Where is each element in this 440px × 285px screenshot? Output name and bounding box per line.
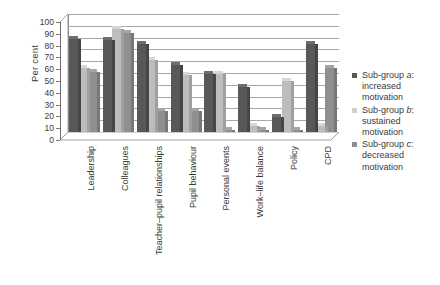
legend-label-line3: motivation bbox=[362, 127, 440, 138]
bar-face bbox=[325, 68, 334, 132]
x-tick-label: Work–life balance bbox=[256, 146, 265, 217]
bar bbox=[325, 68, 334, 132]
y-tick-label-100: 100 bbox=[40, 18, 54, 26]
bar-group bbox=[137, 22, 165, 140]
y-tick-label-0: 0 bbox=[49, 136, 54, 144]
bar-side bbox=[87, 68, 90, 132]
y-tick-label-20: 20 bbox=[45, 112, 54, 120]
bar-face bbox=[238, 87, 247, 132]
bar-group bbox=[171, 22, 199, 140]
legend-swatch-icon bbox=[352, 73, 357, 78]
legend-label-line2: sustained bbox=[362, 116, 440, 127]
y-tick-mark-20 bbox=[56, 116, 60, 117]
y-tick-label-40: 40 bbox=[45, 89, 54, 97]
y-tick-label-30: 30 bbox=[45, 101, 54, 109]
bar-group bbox=[272, 22, 300, 140]
bar-top bbox=[137, 41, 146, 44]
bar-side bbox=[232, 130, 235, 132]
y-tick-label-10: 10 bbox=[45, 124, 54, 132]
bar-side bbox=[112, 40, 115, 132]
x-tick-label: Personal events bbox=[222, 146, 231, 211]
bar-group bbox=[204, 22, 232, 140]
legend-label-line1: Sub-group c: bbox=[362, 139, 440, 150]
bar-side bbox=[213, 74, 216, 132]
bar-top bbox=[171, 62, 180, 65]
y-tick-label-60: 60 bbox=[45, 65, 54, 73]
bar-side bbox=[223, 74, 226, 132]
bar bbox=[238, 87, 247, 132]
bar-top bbox=[325, 65, 334, 68]
legend-label-line1: Sub-group b: bbox=[362, 105, 440, 116]
bar-top bbox=[204, 71, 213, 74]
bar-face bbox=[272, 117, 281, 132]
bar-side bbox=[146, 44, 149, 133]
bar-face bbox=[204, 74, 213, 132]
y-tick-label-70: 70 bbox=[45, 53, 54, 61]
bar-face bbox=[137, 44, 146, 133]
bar-group bbox=[69, 22, 97, 140]
y-tick-label-80: 80 bbox=[45, 42, 54, 50]
bar-face bbox=[103, 40, 112, 132]
legend-label-line1: Sub-group a: bbox=[362, 70, 440, 81]
y-tick-mark-50 bbox=[56, 81, 60, 82]
x-tick-label: Leadership bbox=[87, 146, 96, 191]
y-tick-mark-90 bbox=[56, 34, 60, 35]
bar-side bbox=[180, 65, 183, 132]
plot-area bbox=[60, 14, 339, 140]
bar-side bbox=[189, 75, 192, 132]
y-tick-mark-10 bbox=[56, 128, 60, 129]
bar-top bbox=[272, 114, 281, 117]
legend-label-line3: motivation bbox=[362, 92, 440, 103]
bar-side bbox=[266, 130, 269, 132]
bar-chart: Per cent 1009080706050403020100 Leadersh… bbox=[0, 0, 440, 285]
bar-top bbox=[306, 41, 315, 44]
chart-legend: Sub-group a:increasedmotivationSub-group… bbox=[352, 70, 440, 174]
y-axis-tick-labels: 1009080706050403020100 bbox=[26, 14, 54, 140]
legend-swatch-icon bbox=[352, 142, 357, 147]
bar-face bbox=[306, 44, 315, 133]
y-tick-label-90: 90 bbox=[45, 30, 54, 38]
bar-side bbox=[199, 111, 202, 132]
bar bbox=[69, 39, 78, 132]
bar-side bbox=[325, 126, 328, 132]
bar bbox=[137, 44, 146, 133]
bar-side bbox=[97, 72, 100, 132]
bar-side bbox=[247, 87, 250, 132]
legend-item: Sub-group b:sustainedmotivation bbox=[352, 105, 440, 139]
bar-side bbox=[131, 33, 134, 132]
x-tick-label: Teacher–pupil relationships bbox=[155, 146, 164, 255]
bar-side bbox=[78, 39, 81, 132]
bar-top bbox=[69, 36, 78, 39]
x-tick-label: CPD bbox=[324, 146, 333, 165]
bar-side bbox=[281, 117, 284, 132]
x-tick-label: Colleagues bbox=[121, 146, 130, 191]
bar bbox=[204, 74, 213, 132]
bar-top bbox=[103, 37, 112, 40]
bar-side bbox=[121, 29, 124, 132]
bar-group bbox=[306, 22, 334, 140]
y-tick-mark-60 bbox=[56, 69, 60, 70]
gridline-90 bbox=[68, 26, 339, 27]
y-tick-mark-70 bbox=[56, 57, 60, 58]
legend-label-line2: increased bbox=[362, 81, 440, 92]
x-tick-label: Policy bbox=[290, 146, 299, 170]
bar bbox=[272, 117, 281, 132]
bar-side bbox=[291, 81, 294, 132]
y-tick-label-50: 50 bbox=[45, 77, 54, 85]
bar-group bbox=[238, 22, 266, 140]
bar-side bbox=[165, 111, 168, 132]
bar-side bbox=[257, 126, 260, 132]
x-axis-tick-labels: LeadershipColleaguesTeacher–pupil relati… bbox=[60, 146, 350, 271]
legend-label-line2: decreased bbox=[362, 150, 440, 161]
y-tick-mark-100 bbox=[56, 22, 60, 23]
bar bbox=[103, 40, 112, 132]
y-tick-mark-40 bbox=[56, 93, 60, 94]
gridline-100 bbox=[68, 14, 339, 15]
x-tick-label: Pupil behaviour bbox=[189, 146, 198, 208]
legend-swatch-icon bbox=[352, 108, 357, 113]
bar-top bbox=[112, 26, 121, 29]
bar-side bbox=[315, 44, 318, 133]
legend-item: Sub-group a:increasedmotivation bbox=[352, 70, 440, 104]
y-tick-mark-30 bbox=[56, 105, 60, 106]
bar bbox=[306, 44, 315, 133]
